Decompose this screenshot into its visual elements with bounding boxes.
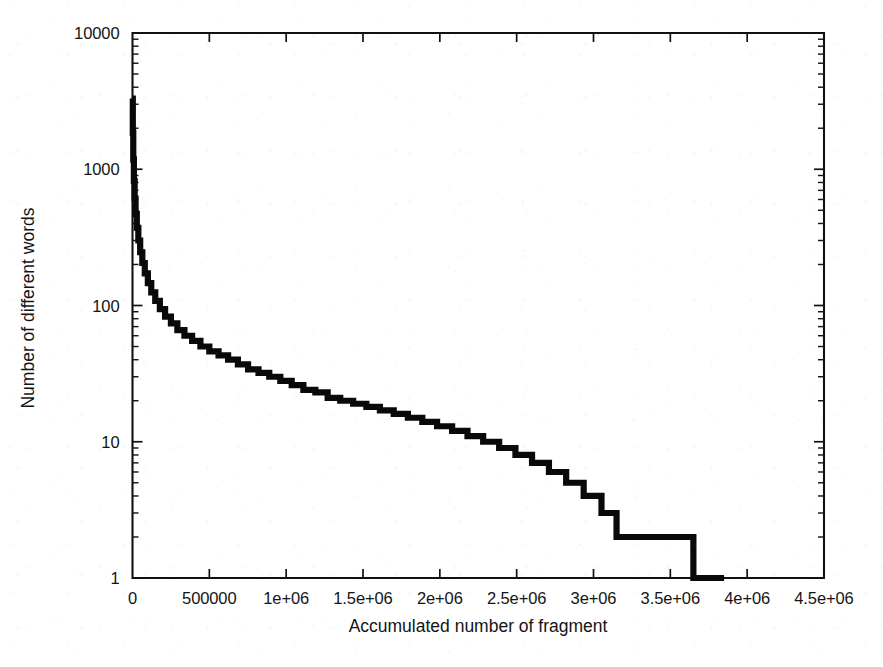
x-axis-tick-label: 1.5e+06 bbox=[333, 589, 392, 608]
plot-area bbox=[0, 0, 883, 667]
x-axis-title: Accumulated number of fragment bbox=[349, 616, 608, 637]
x-axis-tick-label: 500000 bbox=[182, 589, 236, 608]
x-axis-tick-label: 2.5e+06 bbox=[487, 589, 546, 608]
y-axis-tick-label: 1 bbox=[0, 569, 120, 588]
chart-figure: 05000001e+061.5e+062e+062.5e+063e+063.5e… bbox=[0, 0, 883, 667]
data-series-line bbox=[133, 99, 725, 578]
x-axis-tick-label: 3e+06 bbox=[571, 589, 617, 608]
x-axis-tick-label: 2e+06 bbox=[417, 589, 463, 608]
x-axis-tick-label: 4.5e+06 bbox=[794, 589, 853, 608]
x-axis-tick-label: 0 bbox=[128, 589, 137, 608]
x-axis-tick-label: 1e+06 bbox=[263, 589, 309, 608]
x-axis-tick-label: 4e+06 bbox=[724, 589, 770, 608]
y-axis-tick-label: 10000 bbox=[0, 24, 120, 43]
y-axis-title: Number of different words bbox=[18, 207, 39, 408]
y-axis-tick-label: 1000 bbox=[0, 160, 120, 179]
x-axis-tick-label: 3.5e+06 bbox=[641, 589, 700, 608]
y-axis-tick-label: 10 bbox=[0, 432, 120, 451]
